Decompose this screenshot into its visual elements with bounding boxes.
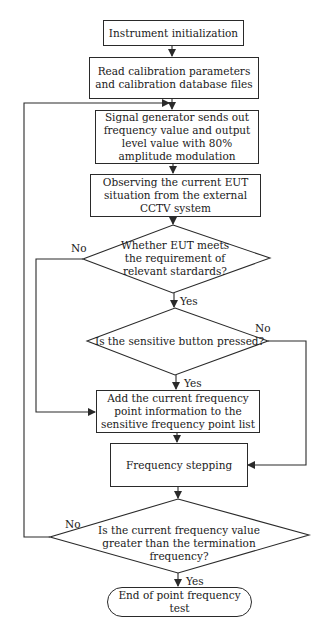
end-terminal: End of point frequency test <box>107 587 252 617</box>
term-no-label: No <box>65 518 81 530</box>
observe-eut-box: Observing the current EUT situation from… <box>90 174 261 217</box>
add-point-text: Add the current frequency point informat… <box>100 392 256 431</box>
init-text: Instrument initialization <box>109 27 238 40</box>
term-yes-label: Yes <box>186 575 204 587</box>
eut-no-label: No <box>71 242 87 254</box>
signal-generator-box: Signal generator sends out frequency val… <box>95 110 259 164</box>
read-calibration-box: Read calibration parameters and calibrat… <box>89 57 259 99</box>
signal-generator-text: Signal generator sends out frequency val… <box>99 111 255 163</box>
decision-eut-text: Whether EUT meets the requirement of rel… <box>113 239 237 278</box>
button-yes-label: Yes <box>184 377 202 389</box>
init-box: Instrument initialization <box>103 20 244 46</box>
button-no-label: No <box>255 322 271 334</box>
add-point-box: Add the current frequency point informat… <box>96 390 260 433</box>
freq-step-text: Frequency stepping <box>126 459 232 472</box>
observe-eut-text: Observing the current EUT situation from… <box>94 176 257 215</box>
decision-termination-text: Is the current frequency value greater t… <box>88 524 270 563</box>
decision-button-text: Is the sensitive button pressed? <box>95 335 259 348</box>
read-calibration-text: Read calibration parameters and calibrat… <box>93 65 255 91</box>
end-text: End of point frequency test <box>108 589 251 615</box>
freq-step-box: Frequency stepping <box>110 443 248 487</box>
eut-yes-label: Yes <box>180 295 198 307</box>
